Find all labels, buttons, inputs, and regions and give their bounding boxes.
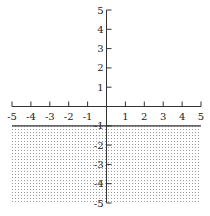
x-tick-label: 2 (141, 111, 147, 122)
y-tick-label: -1 (94, 120, 104, 131)
inequality-graph: -5-4-3-2-112345 54321-1-2-3-4-5 (0, 0, 210, 216)
x-tick-label: -2 (64, 111, 74, 122)
x-tick-label: 3 (160, 111, 166, 122)
y-tick-label: 4 (97, 24, 103, 35)
y-tick-label: 2 (97, 62, 103, 73)
x-tick-label: -5 (7, 111, 17, 122)
y-tick-label: -3 (94, 159, 104, 170)
x-tick-label: 1 (122, 111, 128, 122)
x-axis-ticks: -5-4-3-2-112345 (7, 102, 204, 122)
y-tick-label: -2 (94, 140, 104, 151)
x-tick-label: -1 (83, 111, 93, 122)
y-tick-label: 5 (97, 5, 103, 16)
y-tick-label: 3 (97, 43, 103, 54)
x-tick-label: 5 (198, 111, 204, 122)
y-tick-label: -4 (94, 178, 104, 189)
y-tick-label: 1 (97, 82, 103, 93)
x-tick-label: 4 (179, 111, 185, 122)
x-tick-label: -4 (26, 111, 36, 122)
y-tick-label: -5 (94, 198, 104, 209)
x-tick-label: -3 (45, 111, 55, 122)
